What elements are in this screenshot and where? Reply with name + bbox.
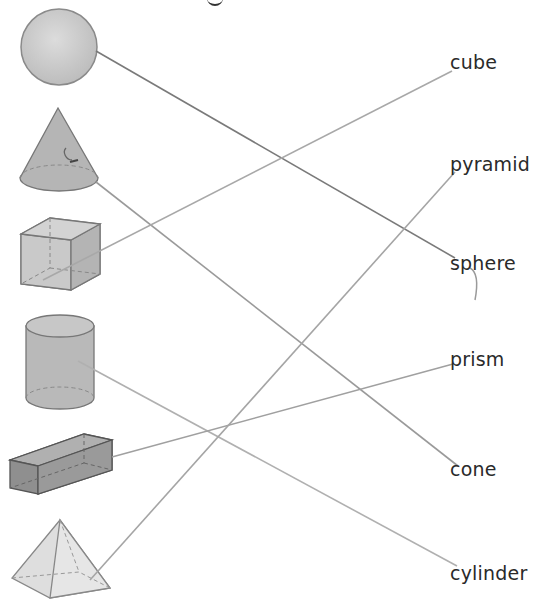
label-cube[interactable]: cube xyxy=(450,53,497,72)
connection-line-sphere[interactable] xyxy=(96,51,455,258)
connection-line-prism[interactable] xyxy=(112,364,453,457)
label-cone[interactable]: cone xyxy=(450,460,497,479)
label-pyramid[interactable]: pyramid xyxy=(450,155,530,174)
connection-line-cube[interactable] xyxy=(43,71,452,280)
connection-line-pyramid[interactable] xyxy=(90,172,455,580)
matching-worksheet: cube pyramid sphere prism cone cylinder xyxy=(0,0,543,608)
connection-line-cylinder[interactable] xyxy=(78,361,457,566)
label-prism[interactable]: prism xyxy=(450,350,505,369)
label-sphere[interactable]: sphere xyxy=(450,254,516,273)
connection-lines xyxy=(0,0,543,608)
label-cylinder[interactable]: cylinder xyxy=(450,564,527,583)
